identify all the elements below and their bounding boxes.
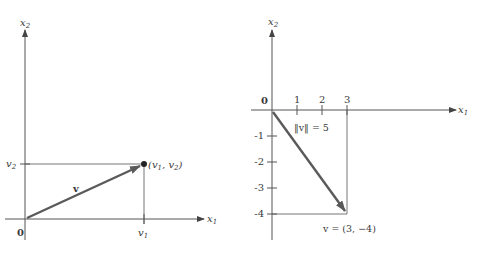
left-figure: x2 x1 0 v (v1, v2) v2 v1 xyxy=(5,17,217,240)
left-origin-label: 0 xyxy=(17,227,24,238)
right-x-tick-3: 3 xyxy=(344,94,350,105)
left-point-label: (v1, v2) xyxy=(148,159,183,172)
right-y-axis-label: x2 xyxy=(268,16,279,29)
right-y-tick-neg2: -2 xyxy=(254,156,264,167)
right-y-tick-neg3: -3 xyxy=(254,182,264,193)
right-y-tick-neg4: -4 xyxy=(254,208,264,219)
left-tick-x-label: v1 xyxy=(138,227,148,240)
right-x-tick-2: 2 xyxy=(319,94,325,105)
right-norm-label: ‖v‖ = 5 xyxy=(294,122,329,134)
right-vector-label: v = (3, −4) xyxy=(322,223,376,234)
right-x-tick-1: 1 xyxy=(294,94,300,105)
left-vector-label: v xyxy=(72,183,80,194)
left-x-axis-label: x1 xyxy=(207,213,217,226)
right-origin-label: 0 xyxy=(261,95,268,106)
left-point xyxy=(141,161,147,167)
right-y-tick-neg1: -1 xyxy=(254,130,264,141)
right-figure: x2 x1 0 1 2 3 -1 -2 -3 -4 ‖v‖ = 5 v = (3… xyxy=(251,16,468,240)
left-y-axis-label: x2 xyxy=(20,17,31,30)
left-tick-y-label: v2 xyxy=(6,158,17,171)
left-vector-v xyxy=(27,166,140,218)
right-x-axis-label: x1 xyxy=(458,104,468,117)
